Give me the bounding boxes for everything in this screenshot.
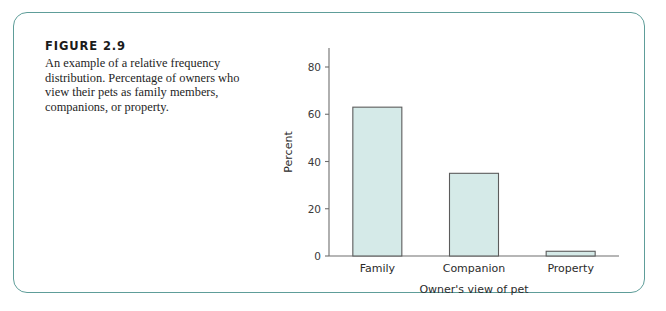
- figure-frame: FIGURE 2.9 An example of a relative freq…: [13, 12, 645, 293]
- y-axis-tick-label: 80: [308, 61, 321, 73]
- figure-caption-block: FIGURE 2.9 An example of a relative freq…: [45, 39, 260, 114]
- bar-property: [546, 251, 595, 256]
- x-axis-category-label: Family: [360, 262, 396, 275]
- x-axis-category-label: Property: [547, 262, 594, 275]
- y-axis-tick-label: 0: [314, 250, 321, 262]
- y-axis-tick-label: 40: [308, 156, 321, 168]
- chart-canvas: 020406080PercentFamilyCompanionPropertyO…: [276, 41, 636, 296]
- figure-number-heading: FIGURE 2.9: [45, 39, 260, 53]
- x-axis-category-label: Companion: [443, 262, 506, 275]
- bar-companion: [450, 173, 499, 256]
- figure-caption-text: An example of a relative frequency distr…: [45, 56, 260, 114]
- x-axis-title: Owner's view of pet: [419, 283, 529, 296]
- y-axis-title: Percent: [282, 131, 295, 173]
- bar-family: [353, 107, 402, 256]
- bar-chart: 020406080PercentFamilyCompanionPropertyO…: [276, 41, 636, 296]
- y-axis-tick-label: 20: [308, 203, 321, 215]
- y-axis-tick-label: 60: [308, 108, 321, 120]
